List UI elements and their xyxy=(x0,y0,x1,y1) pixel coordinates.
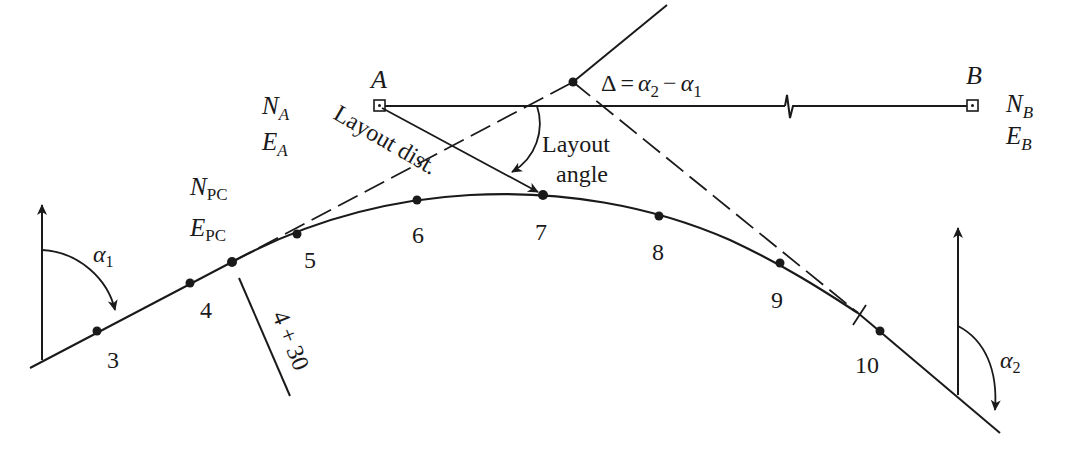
pt-tick-mark xyxy=(853,305,866,325)
station-point-8 xyxy=(655,212,664,221)
delta-equation: Δ=α2−α1 xyxy=(601,70,702,101)
station-label-3: 3 xyxy=(107,347,119,373)
point-a-label: A xyxy=(369,65,387,94)
layout-angle-label-line1: Layout xyxy=(542,131,610,157)
forward-tangent-dashed xyxy=(573,82,858,313)
station-point-5 xyxy=(293,230,302,239)
curve-layout-diagram: A NA EA B NB EB NPC EPC Δ=α2−α1 Layout d… xyxy=(0,0,1069,460)
pc-point xyxy=(227,257,237,267)
east-a-label: EA xyxy=(261,128,288,160)
pi-point xyxy=(569,78,578,87)
station-label-5: 5 xyxy=(304,247,316,273)
north-a-label: NA xyxy=(261,92,290,124)
alpha1-label: α1 xyxy=(93,241,114,270)
east-b-label: EB xyxy=(1005,122,1032,154)
north-b-label: NB xyxy=(1005,90,1034,122)
station-point-9 xyxy=(776,259,785,268)
alpha2-arc xyxy=(958,326,995,410)
alpha2-label: α2 xyxy=(1000,347,1021,376)
station-point-10 xyxy=(876,327,885,336)
station-point-4 xyxy=(186,279,195,288)
point-b-label: B xyxy=(966,61,982,90)
station-label-4: 4 xyxy=(200,297,212,323)
station-point-7 xyxy=(538,190,548,200)
east-pc-label: EPC xyxy=(189,214,226,245)
station-label-9: 9 xyxy=(771,287,783,313)
layout-angle-label-line2: angle xyxy=(556,161,608,187)
station-point-3 xyxy=(93,327,102,336)
station-label-10: 10 xyxy=(855,352,879,378)
station-label-6: 6 xyxy=(412,222,424,248)
pc-station-value: 4 + 30 xyxy=(267,307,314,374)
north-pc-label: NPC xyxy=(189,173,227,204)
station-label-7: 7 xyxy=(535,219,547,245)
station-point-6 xyxy=(413,196,422,205)
layout-angle-arc xyxy=(512,106,540,172)
break-symbol-icon xyxy=(785,95,968,118)
station-label-8: 8 xyxy=(652,239,664,265)
point-b-marker xyxy=(967,100,978,111)
